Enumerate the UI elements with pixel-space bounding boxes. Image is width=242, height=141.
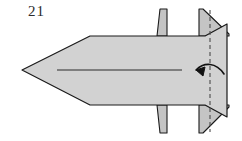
fin-top-left-shape	[157, 9, 167, 36]
fin-bottom-left-shape	[157, 105, 167, 133]
origami-diagram	[0, 0, 242, 141]
origami-figure: 21	[0, 0, 242, 141]
